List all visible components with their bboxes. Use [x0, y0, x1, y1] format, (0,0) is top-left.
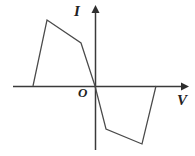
x-axis-label: V — [177, 93, 187, 108]
iv-characteristic-figure: I V O — [0, 0, 195, 156]
figure-canvas — [0, 0, 195, 156]
y-axis-arrowhead — [92, 5, 100, 13]
origin-label: O — [78, 86, 87, 99]
iv-curve — [33, 20, 156, 144]
x-axis-arrowhead — [181, 83, 189, 91]
y-axis-label: I — [74, 4, 80, 19]
